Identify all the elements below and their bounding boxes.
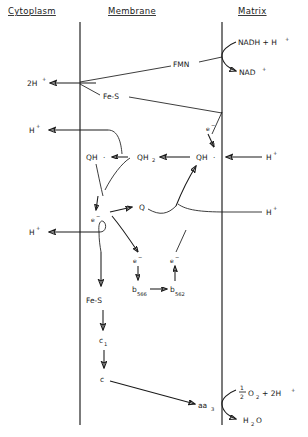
label-cyt-c1-sub: 1 bbox=[104, 341, 107, 347]
label-oxygen-protons-charge: + bbox=[291, 387, 295, 393]
label-qh-radical-right: QH bbox=[196, 153, 208, 162]
label-electron-lower-right: e bbox=[170, 257, 174, 264]
line-fes1-right bbox=[129, 97, 222, 113]
curve-qh-left-down bbox=[96, 164, 103, 196]
label-cyt-c: c bbox=[100, 375, 104, 384]
header-membrane: Membrane bbox=[108, 6, 156, 16]
label-cyt-aa3-sub: 3 bbox=[211, 406, 214, 412]
curve-qh-to-proton-out bbox=[108, 130, 122, 154]
label-cyt-b566-sub: 566 bbox=[137, 291, 147, 297]
label-oxygen-plus-protons: + 2H bbox=[262, 389, 281, 398]
label-h-plus-right-upper-charge: + bbox=[273, 150, 277, 156]
label-qh2: QH bbox=[137, 153, 149, 162]
arrow-to-quinone bbox=[110, 207, 132, 212]
label-quinone: Q bbox=[139, 203, 145, 212]
label-qh-radical-left-dot: · bbox=[103, 153, 105, 162]
label-electron-top-right: e bbox=[206, 125, 210, 132]
label-electron-left: e bbox=[91, 216, 95, 223]
label-h-plus-left-lower-charge: + bbox=[36, 225, 40, 231]
line-fmn-left bbox=[80, 66, 171, 82]
arrow-to-electron-left bbox=[96, 196, 98, 210]
curve-quinone-right bbox=[148, 206, 176, 213]
arrow-nadh-to-nad bbox=[222, 42, 236, 71]
label-fe-s-complex-iii: Fe-S bbox=[86, 296, 102, 305]
label-cyt-aa3: aa bbox=[198, 401, 207, 410]
label-cyt-c1: c bbox=[99, 336, 103, 345]
label-fmn: FMN bbox=[173, 60, 189, 69]
label-water-o: O bbox=[256, 416, 262, 425]
arrow-oxygen-to-water bbox=[222, 390, 236, 419]
label-h-plus-right-lower: H bbox=[266, 208, 272, 217]
label-h-plus-left-upper-charge: + bbox=[36, 123, 40, 129]
label-cyt-b562-sub: 562 bbox=[175, 291, 185, 297]
label-oxygen-denominator: 2 bbox=[240, 393, 244, 400]
line-fes1-left bbox=[80, 84, 100, 95]
line-electron-right-up bbox=[176, 230, 186, 252]
header-cytoplasm: Cytoplasm bbox=[8, 6, 56, 16]
label-2h-plus: 2H bbox=[27, 79, 37, 88]
arrow-c-to-aa3 bbox=[110, 381, 195, 404]
label-water: H bbox=[243, 416, 249, 425]
electron-transport-chain-diagram: Cytoplasm Membrane Matrix NADH + H + NAD… bbox=[0, 0, 308, 437]
label-nad-charge: + bbox=[262, 66, 266, 72]
label-h-plus-left-upper: H bbox=[29, 126, 35, 135]
header-matrix: Matrix bbox=[238, 6, 267, 16]
label-nad: NAD bbox=[239, 68, 256, 77]
arrow-quinone-to-qh-right bbox=[176, 166, 196, 206]
label-electron-lower-left: e bbox=[133, 257, 137, 264]
label-electron-lower-right-charge: − bbox=[175, 254, 179, 260]
label-nadh-charge: + bbox=[285, 36, 289, 42]
label-qh2-sub: 2 bbox=[152, 157, 155, 163]
curve-proton-lower-kink bbox=[99, 221, 106, 252]
label-qh-radical-left: QH bbox=[86, 153, 98, 162]
label-electron-top-right-charge: − bbox=[211, 122, 215, 128]
label-water-sub: 2 bbox=[251, 421, 254, 427]
label-oxygen-sub: 2 bbox=[256, 394, 259, 400]
label-h-plus-right-lower-charge: + bbox=[273, 205, 277, 211]
label-oxygen-numerator: 1 bbox=[240, 384, 244, 391]
label-nadh: NADH + H bbox=[238, 38, 277, 47]
label-2h-plus-charge: + bbox=[42, 76, 46, 82]
curve-proton-in-lower bbox=[178, 204, 226, 212]
arrow-to-electron-lower-left bbox=[112, 216, 138, 252]
line-fmn-right bbox=[199, 57, 222, 62]
label-h-plus-right-upper: H bbox=[266, 153, 272, 162]
label-qh-radical-right-dot: · bbox=[213, 153, 215, 162]
label-fe-s-complex-i: Fe-S bbox=[103, 92, 119, 101]
arrow-electron-to-qh-right bbox=[208, 134, 214, 147]
label-h-plus-left-lower: H bbox=[29, 228, 35, 237]
label-oxygen: O bbox=[248, 389, 254, 398]
label-electron-left-charge: − bbox=[96, 213, 100, 219]
label-electron-lower-left-charge: − bbox=[138, 254, 142, 260]
curve-qh2-branch-down bbox=[105, 158, 130, 190]
